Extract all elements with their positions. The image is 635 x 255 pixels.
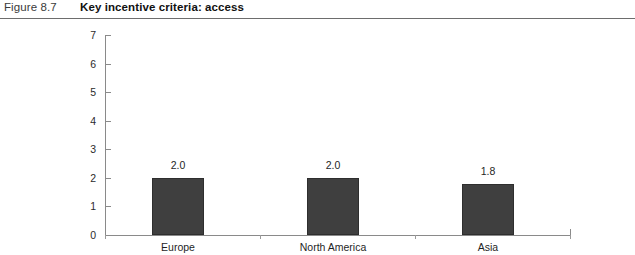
- y-tick-7: [105, 35, 111, 36]
- y-tick-5: [105, 92, 111, 93]
- bar-europe: [152, 178, 204, 236]
- x-label-north-america: North America: [277, 241, 389, 253]
- x-tick-0: [105, 235, 106, 239]
- figure-title: Key incentive criteria: access: [80, 1, 244, 13]
- bar-value-europe: 2.0: [142, 160, 214, 171]
- bar-asia: [462, 184, 514, 236]
- figure-header: Figure 8.7 Key incentive criteria: acces…: [0, 0, 635, 18]
- y-tick-label-1: 1: [68, 201, 96, 211]
- y-tick-1: [105, 206, 111, 207]
- y-tick-label-7: 7: [68, 30, 96, 40]
- x-label-asia: Asia: [452, 241, 524, 253]
- y-axis-line: [105, 35, 106, 235]
- x-tick-2: [415, 235, 416, 239]
- bar-chart: 7 6 5 4 3 2 1 0 2.0 Europe 2.0 North Ame…: [0, 19, 635, 255]
- x-tick-1: [260, 235, 261, 239]
- y-tick-3: [105, 149, 111, 150]
- y-tick-6: [105, 64, 111, 65]
- y-tick-label-4: 4: [68, 116, 96, 126]
- bar-value-north-america: 2.0: [297, 160, 369, 171]
- x-label-europe: Europe: [142, 241, 214, 253]
- x-tick-3: [570, 235, 571, 239]
- y-tick-label-3: 3: [68, 144, 96, 154]
- bar-north-america: [307, 178, 359, 236]
- y-tick-2: [105, 178, 111, 179]
- y-tick-label-5: 5: [68, 87, 96, 97]
- figure-number: Figure 8.7: [4, 1, 57, 13]
- y-tick-4: [105, 121, 111, 122]
- y-tick-label-6: 6: [68, 59, 96, 69]
- bar-value-asia: 1.8: [452, 166, 524, 177]
- y-tick-label-2: 2: [68, 173, 96, 183]
- y-tick-label-0: 0: [68, 230, 96, 240]
